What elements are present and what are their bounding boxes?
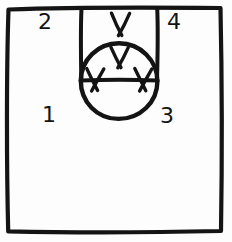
quadrant-label-4: 4 — [167, 11, 181, 33]
x-mark-circle-top — [111, 47, 128, 67]
x-mark-top-outside — [112, 13, 130, 35]
quadrant-label-2: 2 — [38, 11, 52, 33]
sketch-canvas: 1 2 3 4 — [0, 0, 232, 242]
quadrant-label-1: 1 — [42, 104, 56, 126]
quadrant-label-3: 3 — [160, 105, 174, 127]
sketch-drawing — [0, 0, 232, 242]
